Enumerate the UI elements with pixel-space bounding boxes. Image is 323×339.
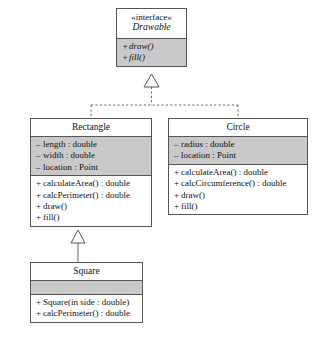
visibility-marker: – [36,139,43,150]
visibility-marker: – [174,139,181,150]
operation-row: +calcPerimeter() : double [36,308,140,319]
operation-row: +Square(in side : double) [36,297,140,308]
operation-label: Square(in side : double) [43,297,129,307]
operation-row: +draw() [174,190,305,201]
attributes-compartment-circle: –radius : double –location : Point [169,137,307,165]
operation-label: fill() [43,212,60,222]
visibility-marker: + [36,297,43,308]
operation-label: calculateArea() : double [181,167,268,177]
visibility-marker: + [174,190,181,201]
attribute-row: –length : double [36,139,149,150]
attributes-compartment-rectangle: –length : double –width : double –locati… [31,137,151,176]
visibility-marker: – [36,162,43,173]
operation-label: calculateArea() : double [43,178,130,188]
visibility-marker: + [36,190,43,201]
visibility-marker: – [174,150,181,161]
attribute-label: length : double [43,139,97,149]
class-header-square: Square [31,263,142,281]
operations-compartment-circle: +calculateArea() : double +calcCircumfer… [169,165,307,215]
visibility-marker: + [122,52,129,63]
operation-row: +calculateArea() : double [36,178,149,189]
operation-row: +fill() [122,52,184,63]
class-box-drawable[interactable]: «interface» Drawable +draw() +fill() [116,8,187,67]
operation-label: calcCircumference() : double [181,178,286,188]
class-box-circle[interactable]: Circle –radius : double –location : Poin… [168,118,308,215]
generalization-connector-group [71,230,85,262]
attribute-row: –radius : double [174,139,305,150]
class-header-circle: Circle [169,119,307,137]
attribute-label: location : Point [181,150,236,160]
operation-row: +fill() [36,212,149,223]
operation-row: +fill() [174,201,305,212]
operation-label: fill() [129,52,145,62]
class-box-rectangle[interactable]: Rectangle –length : double –width : doub… [30,118,152,227]
operation-label: draw() [43,201,67,211]
visibility-marker: + [36,178,43,189]
operations-compartment-square: +Square(in side : double) +calcPerimeter… [31,295,142,322]
class-header-rectangle: Rectangle [31,119,151,137]
operation-row: +draw() [36,201,149,212]
operation-row: +calcPerimeter() : double [36,190,149,201]
attribute-row: –location : Point [36,162,149,173]
attributes-compartment-square [31,281,142,295]
class-title: Square [33,267,140,277]
class-title: Circle [171,123,305,133]
class-header-drawable: «interface» Drawable [117,9,186,39]
operation-row: +calcCircumference() : double [174,178,305,189]
operation-label: calcPerimeter() : double [43,308,130,318]
visibility-marker: + [36,212,43,223]
realization-connector-group [91,74,238,118]
class-stereotype: «interface» [119,13,184,23]
operation-label: draw() [129,41,154,51]
visibility-marker: + [36,201,43,212]
visibility-marker: + [122,41,129,52]
visibility-marker: + [174,167,181,178]
attribute-row: –location : Point [174,150,305,161]
operations-compartment-rectangle: +calculateArea() : double +calcPerimeter… [31,176,151,226]
operation-label: calcPerimeter() : double [43,190,130,200]
class-box-square[interactable]: Square +Square(in side : double) +calcPe… [30,262,143,323]
attribute-label: width : double [43,150,95,160]
operations-compartment-drawable: +draw() +fill() [117,39,186,66]
operation-row: +calculateArea() : double [174,167,305,178]
operation-label: fill() [181,201,198,211]
operation-row: +draw() [122,41,184,52]
class-title: Drawable [119,23,184,33]
attribute-row: –width : double [36,150,149,161]
operation-label: draw() [181,190,205,200]
class-title: Rectangle [33,123,149,133]
visibility-marker: + [36,308,43,319]
visibility-marker: + [174,201,181,212]
visibility-marker: + [174,178,181,189]
attribute-label: location : Point [43,162,98,172]
visibility-marker: – [36,150,43,161]
attribute-label: radius : double [181,139,235,149]
